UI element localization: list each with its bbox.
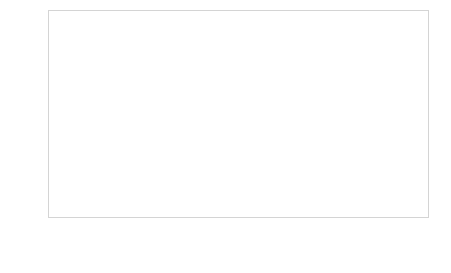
figure	[0, 0, 451, 273]
plot-area	[48, 10, 429, 218]
chart-canvas	[49, 11, 430, 219]
